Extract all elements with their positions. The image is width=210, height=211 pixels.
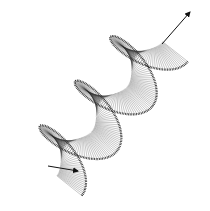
axis-arrow-top-icon — [162, 12, 190, 44]
helix-quiver-plot — [0, 0, 210, 211]
helix-line-fan — [40, 36, 188, 196]
start-arrow-bottom-icon — [48, 166, 78, 171]
